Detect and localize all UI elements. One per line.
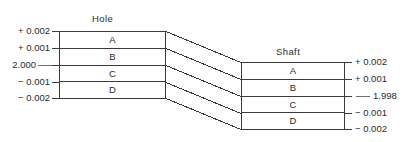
hole-scale-label-minus-0001: − 0.001: [2, 77, 50, 87]
hole-zone-label-a: A: [109, 35, 115, 45]
connector-line-4: [166, 83, 241, 114]
hole-nominal-leader: [38, 65, 52, 66]
hole-zone-row-a: A: [60, 32, 165, 49]
shaft-scale-label-nominal: 1.998: [373, 91, 397, 101]
shaft-zone-label-d: D: [290, 116, 297, 126]
shaft-tick-3: [345, 96, 352, 97]
shaft-tick-5: [345, 129, 352, 130]
shaft-nominal-leader: [356, 96, 370, 97]
hole-zone-label-d: D: [109, 85, 116, 95]
hole-zone-row-b: B: [60, 49, 165, 66]
shaft-scale-label-minus-0002: − 0.002: [355, 124, 387, 134]
hole-tick-3: [52, 65, 59, 66]
shaft-scale-label-plus-0001: + 0.001: [355, 74, 387, 84]
hole-tick-5: [52, 98, 59, 99]
hole-zone-row-d: D: [60, 82, 165, 98]
shaft-tick-4: [345, 113, 352, 114]
shaft-zone-label-c: C: [290, 100, 297, 110]
shaft-zone-row-d: D: [242, 113, 344, 129]
hole-scale-label-plus-0001: + 0.001: [2, 43, 50, 53]
shaft-tick-1: [345, 62, 352, 63]
connector-line-1: [166, 32, 241, 63]
hole-scale-label-plus-0002: + 0.002: [2, 26, 50, 36]
hole-zone-box: A B C D: [59, 31, 166, 99]
shaft-title: Shaft: [276, 46, 300, 57]
hole-zone-label-b: B: [109, 52, 115, 62]
shaft-zone-label-a: A: [290, 66, 296, 76]
shaft-scale-label-plus-0002: + 0.002: [355, 57, 387, 67]
hole-zone-label-c: C: [109, 69, 116, 79]
hole-scale-label-minus-0002: − 0.002: [2, 93, 50, 103]
shaft-zone-box: A B C D: [241, 62, 345, 130]
tolerance-zone-diagram: Hole A B C D + 0.002 + 0.001 2.000 − 0.0…: [0, 0, 408, 142]
hole-tick-2: [52, 48, 59, 49]
shaft-tick-2: [345, 79, 352, 80]
hole-scale-label-nominal: 2.000: [0, 60, 36, 70]
hole-tick-4: [52, 82, 59, 83]
shaft-zone-row-c: C: [242, 97, 344, 114]
shaft-zone-row-b: B: [242, 80, 344, 97]
connector-line-2: [166, 49, 241, 80]
connector-line-5: [166, 99, 241, 130]
hole-zone-row-c: C: [60, 66, 165, 83]
hole-title: Hole: [92, 13, 113, 24]
shaft-scale-label-minus-0001: − 0.001: [355, 108, 387, 118]
hole-tick-1: [52, 31, 59, 32]
connector-line-3: [166, 66, 241, 97]
shaft-zone-row-a: A: [242, 63, 344, 80]
shaft-zone-label-b: B: [290, 83, 296, 93]
